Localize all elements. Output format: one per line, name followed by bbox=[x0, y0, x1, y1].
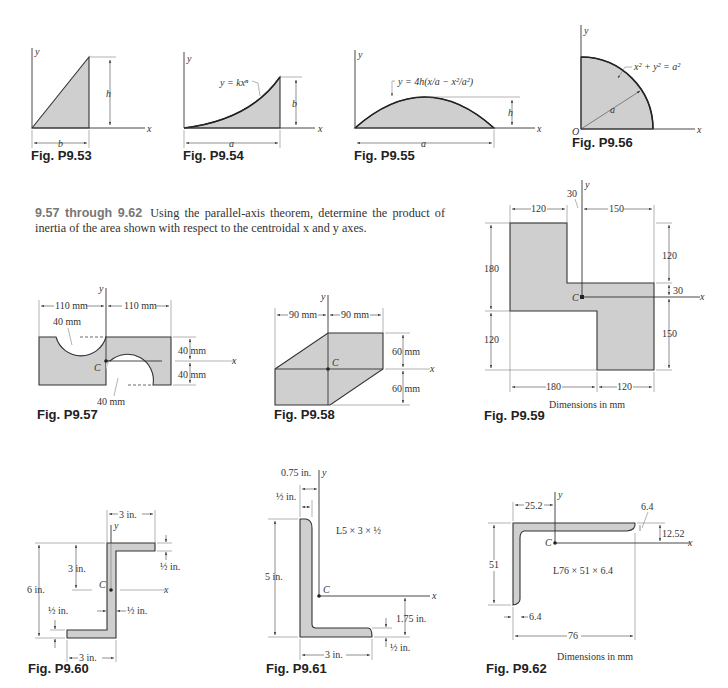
half-height-dim: 3 in. bbox=[68, 563, 86, 574]
height-bottom-label: 40 mm bbox=[178, 369, 206, 380]
height-label: b bbox=[292, 98, 297, 109]
x-axis-label: x bbox=[431, 590, 437, 601]
figure-p9-62: y x C 25.2 6.4 12.52 51 L76 × 51 × 6.4 6… bbox=[486, 489, 693, 676]
figure-p9-60: y x C 3 in. 6 in. 3 in. ½ in. ½ in. ½ in… bbox=[27, 509, 180, 676]
width-right-label: 110 mm bbox=[124, 300, 157, 311]
y-axis-label: y bbox=[320, 291, 326, 302]
figure-p9-56: y x O x² + y² = a² a Fig. P9.56 bbox=[572, 25, 702, 150]
radius-label: a bbox=[610, 104, 615, 115]
centroid-label: C bbox=[99, 579, 106, 590]
centroid-label: C bbox=[94, 362, 101, 373]
x-axis-label: x bbox=[699, 291, 705, 302]
angle-section-area bbox=[513, 523, 635, 605]
height-label: h bbox=[106, 88, 111, 99]
figure-p9-59: y x C 120 150 30 180 120 120 30 150 bbox=[484, 179, 705, 423]
figure-caption: Fig. P9.59 bbox=[484, 408, 545, 423]
curve-equation: y = 4h(x/a − x²/a²) bbox=[397, 76, 474, 88]
width-dim: 76 bbox=[568, 630, 578, 641]
section-designation: L5 × 3 × ½ bbox=[336, 525, 381, 536]
figure-caption: Fig. P9.53 bbox=[31, 148, 92, 163]
bottom-left-dim: 180 bbox=[546, 381, 561, 392]
top-thickness-dim: 6.4 bbox=[641, 501, 654, 512]
right-mid-dim: 30 bbox=[673, 285, 683, 296]
figure-caption: Fig. P9.55 bbox=[354, 148, 415, 163]
figure-p9-57: y x C 110 mm 110 mm 40 mm 40 mm 40 mm 40… bbox=[37, 283, 237, 422]
x-axis-label: x bbox=[687, 537, 693, 548]
left-lower-dim: 120 bbox=[484, 334, 499, 345]
figure-p9-54: y x y = kxⁿ b a Fig. P9.54 bbox=[183, 52, 323, 163]
x-axis-label: x bbox=[317, 123, 323, 134]
centroid-label: C bbox=[572, 292, 579, 303]
centroid-y-dim: 1.75 in. bbox=[396, 613, 426, 624]
height-top-label: 40 mm bbox=[178, 345, 206, 356]
units-note: Dimensions in mm bbox=[557, 651, 633, 662]
curve-equation: x² + y² = a² bbox=[633, 61, 681, 72]
figure-p9-53: y x h b Fig. P9.53 bbox=[31, 46, 152, 163]
right-lower-dim: 150 bbox=[662, 328, 677, 339]
offset-dim: 25.2 bbox=[525, 500, 543, 511]
width-left-label: 110 mm bbox=[55, 300, 88, 311]
figure-caption: Fig. P9.58 bbox=[274, 407, 335, 422]
height-top-label: 60 mm bbox=[392, 346, 420, 357]
units-note: Dimensions in mm bbox=[549, 399, 625, 410]
centroid-label: C bbox=[545, 537, 552, 548]
centroid-label: C bbox=[332, 357, 339, 368]
y-axis-label: y bbox=[583, 25, 589, 36]
x-axis-label: x bbox=[536, 123, 542, 134]
width-left-label: 90 mm bbox=[289, 309, 317, 320]
x-axis-label: x bbox=[163, 584, 169, 595]
figure-p9-61: y x C 0.75 in. ½ in. L5 × 3 × ½ 5 in. 1.… bbox=[265, 467, 437, 676]
y-axis-label: y bbox=[584, 179, 590, 190]
height-dim: 51 bbox=[489, 559, 499, 570]
height-label: h bbox=[508, 107, 513, 118]
x-axis-label: x bbox=[146, 123, 152, 134]
figure-p9-58: y x C 90 mm 90 mm 60 mm 60 mm Fig. P9.58 bbox=[274, 291, 435, 422]
leg-thickness-dim: ½ in. bbox=[390, 642, 410, 653]
top-right-dim: 150 bbox=[609, 203, 624, 214]
y-axis-label: y bbox=[357, 49, 363, 60]
x-axis-label: x bbox=[429, 363, 435, 374]
angle-section-area bbox=[300, 519, 372, 637]
left-upper-dim: 180 bbox=[484, 263, 499, 274]
figure-caption: Fig. P9.54 bbox=[183, 148, 244, 163]
triangle-area bbox=[32, 57, 89, 128]
flange-bottom-dim: ½ in. bbox=[48, 605, 68, 616]
bottom-right-dim: 120 bbox=[617, 381, 632, 392]
figure-p9-55: y x y = 4h(x/a − x²/a²) h a Fig. P9.55 bbox=[354, 49, 542, 163]
radius-bottom-label: 40 mm bbox=[97, 396, 125, 407]
height-dim: 5 in. bbox=[265, 571, 283, 582]
web-thickness-dim: ½ in. bbox=[127, 605, 147, 616]
flange-top-dim: ½ in. bbox=[160, 561, 180, 572]
y-axis-label: y bbox=[113, 520, 119, 531]
figure-caption: Fig. P9.62 bbox=[486, 661, 547, 676]
figure-caption: Fig. P9.60 bbox=[28, 661, 89, 676]
top-width-dim: 3 in. bbox=[119, 509, 137, 520]
centroid-y-dim: 12.52 bbox=[662, 528, 685, 539]
radius-top-label: 40 mm bbox=[53, 316, 81, 327]
y-axis-label: y bbox=[98, 283, 104, 294]
y-axis-label: y bbox=[557, 489, 563, 500]
figure-caption: Fig. P9.57 bbox=[37, 407, 98, 422]
centroid-label: C bbox=[323, 584, 330, 595]
curve-equation: y = kxⁿ bbox=[219, 77, 249, 88]
width-label: a bbox=[421, 138, 426, 149]
x-axis-label: x bbox=[696, 124, 702, 135]
offset-dim: 0.75 in. bbox=[281, 467, 311, 478]
figure-caption: Fig. P9.61 bbox=[266, 661, 327, 676]
y-axis-label: y bbox=[186, 53, 192, 64]
thickness-dim: ½ in. bbox=[276, 491, 296, 502]
top-left-dim: 120 bbox=[531, 203, 546, 214]
leg-thickness-dim: 6.4 bbox=[529, 611, 542, 622]
top-offset-dim: 30 bbox=[567, 188, 577, 199]
section-designation: L76 × 51 × 6.4 bbox=[553, 565, 613, 576]
width-right-label: 90 mm bbox=[341, 309, 369, 320]
y-axis-label: y bbox=[321, 467, 327, 478]
total-height-dim: 6 in. bbox=[27, 584, 45, 595]
right-upper-dim: 120 bbox=[662, 250, 677, 261]
x-axis-label: x bbox=[231, 355, 237, 366]
figure-caption: Fig. P9.56 bbox=[572, 135, 633, 150]
height-bottom-label: 60 mm bbox=[392, 383, 420, 394]
width-dim: 3 in. bbox=[325, 649, 343, 660]
y-axis-label: y bbox=[34, 46, 40, 57]
